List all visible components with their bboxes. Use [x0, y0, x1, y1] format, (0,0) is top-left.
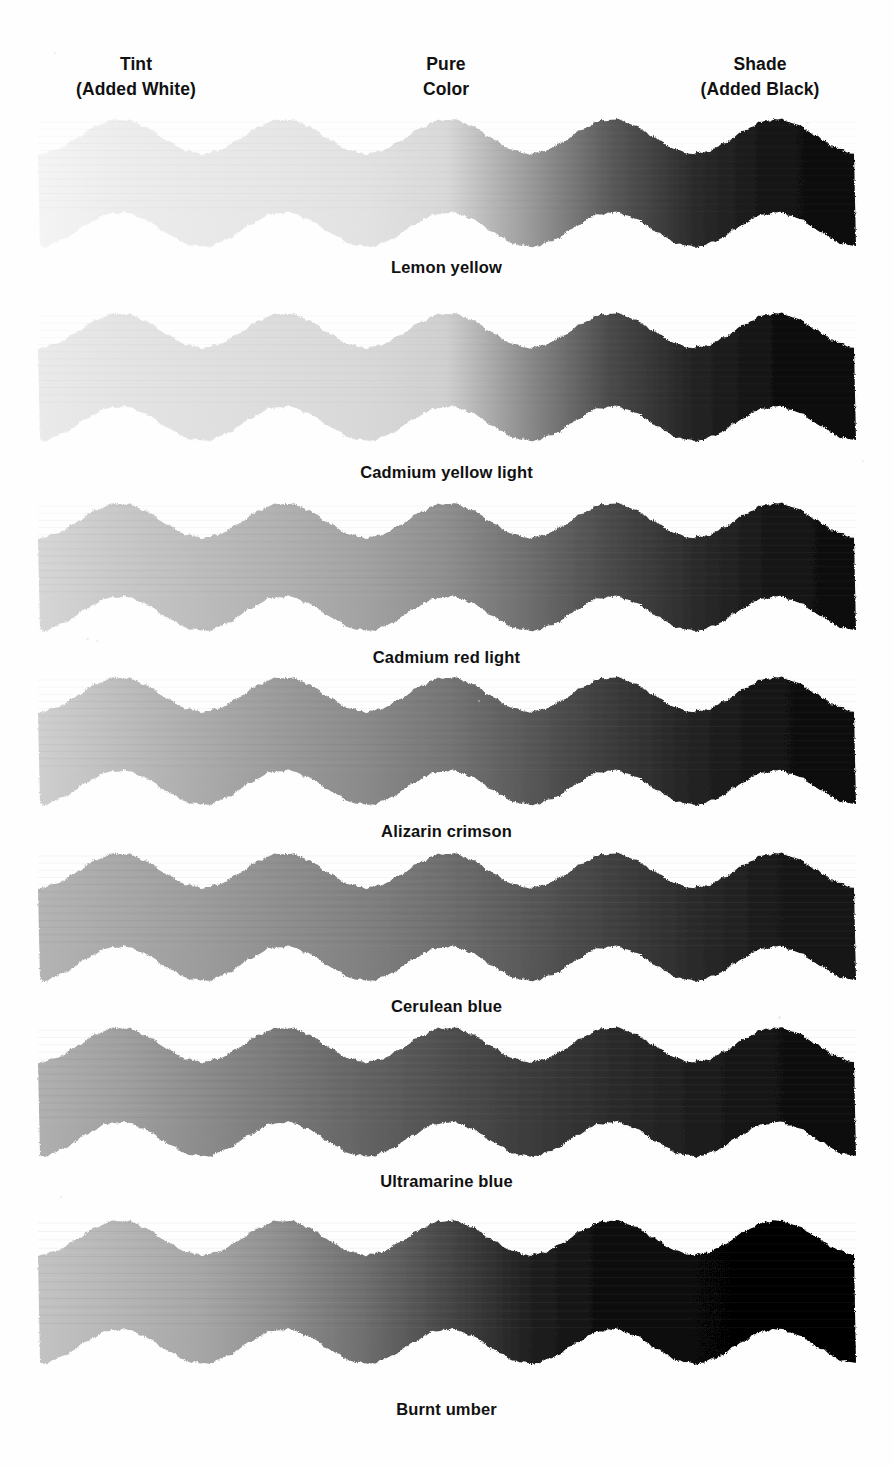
- swatch-label: Burnt umber: [0, 1400, 893, 1419]
- color-band-burnt-umber: [0, 1216, 893, 1368]
- color-band-cerulean-blue: [0, 852, 893, 982]
- scan-speck: [862, 460, 864, 462]
- band-graphic: [0, 502, 893, 632]
- swatch-label: Alizarin crimson: [0, 822, 893, 841]
- band-graphic: [0, 1026, 893, 1158]
- scan-speck: [96, 640, 98, 642]
- scan-speck: [54, 52, 56, 54]
- swatch-label: Ultramarine blue: [0, 1172, 893, 1191]
- swatch-label-text: Cerulean blue: [391, 997, 502, 1016]
- value-scale-rows: Lemon yellowCadmium yellow lightCadmium …: [0, 0, 893, 1468]
- scan-speck: [60, 1196, 62, 1198]
- band-graphic: [0, 312, 893, 442]
- band-shape: [38, 1220, 856, 1365]
- band-graphic: [0, 1216, 893, 1368]
- swatch-label: Lemon yellow: [0, 258, 893, 277]
- color-band-alizarin-crimson: [0, 676, 893, 806]
- swatch-label-text: Burnt umber: [396, 1400, 497, 1419]
- scan-speck: [778, 1016, 781, 1019]
- swatch-label: Cadmium yellow light: [0, 463, 893, 482]
- swatch-label: Cadmium red light: [0, 648, 893, 667]
- color-band-cadmium-red-light: [0, 502, 893, 632]
- scan-speck: [86, 638, 89, 640]
- swatch-label-text: Lemon yellow: [391, 258, 502, 277]
- scan-speck: [806, 122, 809, 124]
- color-band-ultramarine-blue: [0, 1026, 893, 1158]
- band-graphic: [0, 118, 893, 248]
- color-band-cadmium-yellow-light: [0, 312, 893, 442]
- color-band-lemon-yellow: [0, 118, 893, 248]
- scan-speck: [478, 700, 480, 702]
- swatch-label-text: Cadmium red light: [373, 648, 520, 667]
- band-graphic: [0, 852, 893, 982]
- swatch-label-text: Cadmium yellow light: [360, 463, 533, 482]
- swatch-label: Cerulean blue: [0, 997, 893, 1016]
- swatch-label-text: Alizarin crimson: [381, 822, 512, 841]
- swatch-label-text: Ultramarine blue: [380, 1172, 513, 1191]
- band-graphic: [0, 676, 893, 806]
- page-canvas: Tint(Added White)PureColorShade(Added Bl…: [0, 0, 893, 1468]
